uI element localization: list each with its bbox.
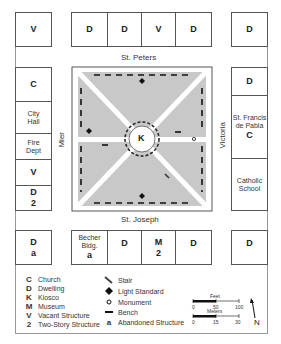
north-label: N: [254, 318, 260, 327]
scale-meters-label: Meters: [207, 308, 222, 314]
scale-meters-tick-0: 0: [192, 319, 195, 325]
scale-meters-tick-1: 15: [213, 319, 219, 325]
scale-feet-tick-0: 0: [192, 304, 195, 310]
scale-feet-label: Feet: [210, 293, 220, 299]
scale-feet-tick-2: 100: [235, 304, 243, 310]
scale-bar: [0, 0, 281, 344]
scale-meters-tick-2: 30: [235, 319, 241, 325]
